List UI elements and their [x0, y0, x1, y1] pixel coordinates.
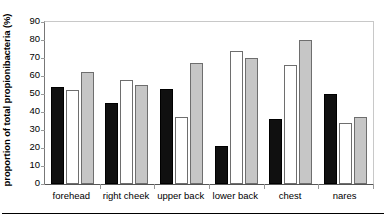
- x-axis-tick-label: chest: [263, 190, 318, 202]
- bar: [175, 117, 188, 184]
- bar-group: [100, 22, 155, 184]
- y-axis-tick-label: 90: [18, 16, 40, 26]
- bar: [269, 119, 282, 184]
- bar: [160, 89, 173, 184]
- bar: [299, 40, 312, 184]
- y-axis-tick-labels: 9080706050403020100: [18, 14, 40, 190]
- y-axis-title: proportion of total propionibacteria (%): [0, 0, 14, 200]
- x-axis-tick-mark: [318, 184, 319, 189]
- plot-area: [44, 21, 374, 185]
- bar-group: [264, 22, 319, 184]
- x-axis-tick-label: nares: [317, 190, 372, 202]
- bar: [190, 63, 203, 184]
- bar: [354, 117, 367, 184]
- bar: [120, 80, 133, 184]
- bar-group: [318, 22, 373, 184]
- y-axis-tick-label: 80: [18, 34, 40, 44]
- x-axis-tick-mark: [264, 184, 265, 189]
- bar: [135, 85, 148, 184]
- bar-group: [45, 22, 100, 184]
- bar-group: [209, 22, 264, 184]
- x-axis-tick-mark: [209, 184, 210, 189]
- bar: [66, 90, 79, 184]
- bar: [51, 87, 64, 184]
- x-axis-tick-mark: [154, 184, 155, 189]
- bar: [284, 65, 297, 184]
- x-axis-tick-label: lower back: [208, 190, 263, 202]
- y-axis-tick-mark: [41, 184, 45, 185]
- x-axis-tick-mark: [100, 184, 101, 189]
- y-axis-tick-label: 40: [18, 106, 40, 116]
- bar: [215, 146, 228, 184]
- bar-group: [154, 22, 209, 184]
- y-axis-tick-label: 60: [18, 70, 40, 80]
- bar: [245, 58, 258, 184]
- y-axis-tick-label: 70: [18, 52, 40, 62]
- bar: [105, 103, 118, 184]
- footer-rule: [2, 213, 384, 214]
- x-axis-tick-label: upper back: [153, 190, 208, 202]
- bar: [339, 123, 352, 184]
- y-axis-tick-label: 30: [18, 124, 40, 134]
- bar-chart: proportion of total propionibacteria (%)…: [0, 0, 386, 222]
- bar: [81, 72, 94, 184]
- x-axis-tick-mark: [373, 184, 374, 189]
- y-axis-tick-label: 50: [18, 88, 40, 98]
- x-axis-tick-labels: foreheadright cheekupper backlower backc…: [44, 190, 374, 206]
- y-axis-tick-label: 10: [18, 160, 40, 170]
- y-axis-tick-label: 0: [18, 178, 40, 188]
- bar: [324, 94, 337, 184]
- x-axis-tick-label: forehead: [44, 190, 99, 202]
- bar: [230, 51, 243, 184]
- y-axis-tick-label: 20: [18, 142, 40, 152]
- x-axis-tick-label: right cheek: [99, 190, 154, 202]
